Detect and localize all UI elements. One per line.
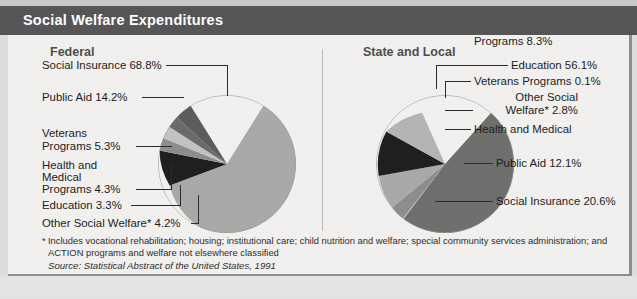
label-federal-other: Other Social Welfare* 4.2% — [42, 217, 180, 230]
leader-federal-education-h — [131, 205, 181, 206]
leader-state-veterans-h — [445, 81, 471, 82]
leader-federal-public-aid — [142, 97, 184, 98]
label-state-health-line2: Programs 8.3% — [474, 35, 553, 48]
pie-chart-federal — [158, 95, 296, 233]
footnote-marker: * — [42, 235, 46, 247]
page-title: Social Welfare Expenditures — [23, 12, 223, 28]
leader-state-veterans-v — [445, 81, 446, 98]
figure-title-bar: Social Welfare Expenditures — [0, 6, 637, 35]
leader-state-education-h — [436, 65, 508, 66]
label-state-other-line1: Other Social — [474, 91, 578, 104]
label-federal-health-line2: Medical — [42, 171, 81, 184]
footnote: * Includes vocational rehabilitation; ho… — [42, 235, 612, 258]
leader-federal-other-v — [198, 195, 199, 224]
label-state-social-insurance: Social Insurance 20.6% — [496, 195, 616, 208]
chart-divider — [322, 49, 323, 231]
leader-federal-health-h — [136, 189, 172, 190]
label-federal-veterans-line2: Programs 5.3% — [42, 140, 121, 153]
label-state-public-aid: Public Aid 12.1% — [496, 157, 582, 170]
leader-state-other — [445, 110, 473, 111]
chart-figure: Social Welfare Expenditures Federal — [0, 0, 637, 299]
leader-state-education-v — [436, 65, 437, 89]
label-federal-public-aid: Public Aid 14.2% — [42, 91, 128, 104]
figure-panel: Federal Social Insurance 68.8% Pu — [8, 35, 632, 276]
label-federal-health-line3: Programs 4.3% — [42, 183, 121, 196]
label-state-health-line1: Health and Medical — [474, 123, 572, 136]
label-federal-education: Education 3.3% — [42, 199, 122, 212]
label-federal-social-insurance: Social Insurance 68.8% — [42, 59, 162, 72]
leader-federal-veterans — [136, 146, 172, 147]
leader-federal-education-v — [180, 185, 181, 206]
chart-heading-federal: Federal — [50, 45, 94, 59]
label-state-veterans: Veterans Programs 0.1% — [474, 75, 601, 88]
label-federal-health-line1: Health and — [42, 159, 97, 172]
leader-federal-social-insurance-v — [227, 65, 228, 96]
label-state-education: Education 56.1% — [511, 59, 597, 72]
label-state-other-line2: Welfare* 2.8% — [474, 104, 578, 117]
leader-federal-health-v — [171, 165, 172, 190]
leader-state-social-insurance — [435, 201, 493, 202]
leader-state-public-aid — [464, 163, 493, 164]
bottom-area: Chart Study — [0, 276, 637, 299]
leader-federal-social-insurance-h — [166, 65, 228, 66]
label-federal-veterans-line1: Veterans — [42, 127, 87, 140]
chart-heading-state-local: State and Local — [363, 45, 455, 59]
leader-state-health — [445, 129, 471, 130]
source-citation: Source: Statistical Abstract of the Unit… — [48, 260, 276, 271]
footnote-text: Includes vocational rehabilitation; hous… — [42, 235, 612, 258]
